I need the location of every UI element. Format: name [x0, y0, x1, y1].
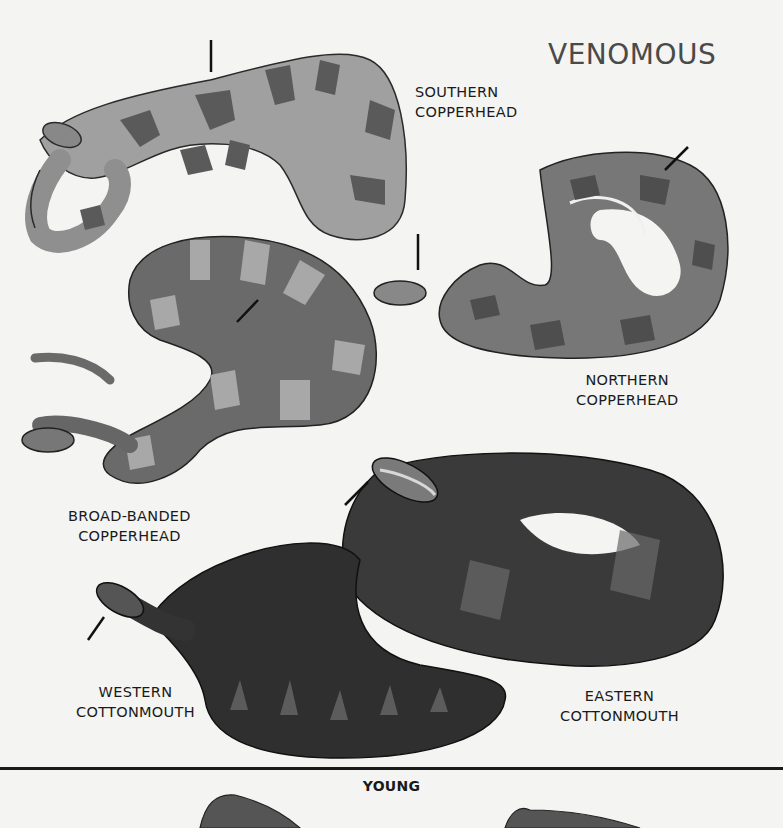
label-line: COPPERHEAD	[415, 102, 517, 122]
young-snakes-illustration	[200, 795, 640, 828]
eastern-cottonmouth-label: EASTERN COTTONMOUTH	[560, 686, 679, 726]
label-line: COPPERHEAD	[576, 390, 678, 410]
label-line: WESTERN	[76, 682, 195, 702]
field-guide-page: VENOMOUS SOUTHERN COPPERHEAD NORTHERN CO…	[0, 0, 783, 828]
section-divider	[0, 767, 783, 770]
label-line: SOUTHERN	[415, 82, 517, 102]
broad-banded-copperhead-illustration	[22, 237, 376, 484]
western-cottonmouth-label: WESTERN COTTONMOUTH	[76, 682, 195, 722]
southern-copperhead-label: SOUTHERN COPPERHEAD	[415, 82, 517, 122]
northern-copperhead-illustration	[374, 147, 728, 358]
broad-banded-copperhead-label: BROAD-BANDED COPPERHEAD	[68, 506, 191, 546]
label-line: BROAD-BANDED	[68, 506, 191, 526]
label-line: COTTONMOUTH	[76, 702, 195, 722]
page-heading: VENOMOUS	[548, 38, 716, 71]
southern-copperhead-illustration	[31, 40, 406, 242]
northern-copperhead-label: NORTHERN COPPERHEAD	[576, 370, 678, 410]
label-line: EASTERN	[560, 686, 679, 706]
label-line: COTTONMOUTH	[560, 706, 679, 726]
eastern-cottonmouth-illustration	[343, 449, 724, 666]
label-line: COPPERHEAD	[68, 526, 191, 546]
label-line: NORTHERN	[576, 370, 678, 390]
young-section-heading: YOUNG	[0, 778, 783, 794]
